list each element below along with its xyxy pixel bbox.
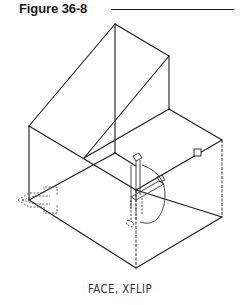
figure-caption: FACE, XFLIP	[18, 282, 222, 296]
step-face	[29, 109, 222, 190]
isometric-drawing	[0, 0, 240, 305]
ucs-icon	[126, 153, 165, 227]
grip-square	[194, 149, 201, 156]
ucs-icon-left	[18, 187, 57, 213]
wedge-outline	[29, 24, 169, 158]
block-sides	[29, 126, 222, 268]
